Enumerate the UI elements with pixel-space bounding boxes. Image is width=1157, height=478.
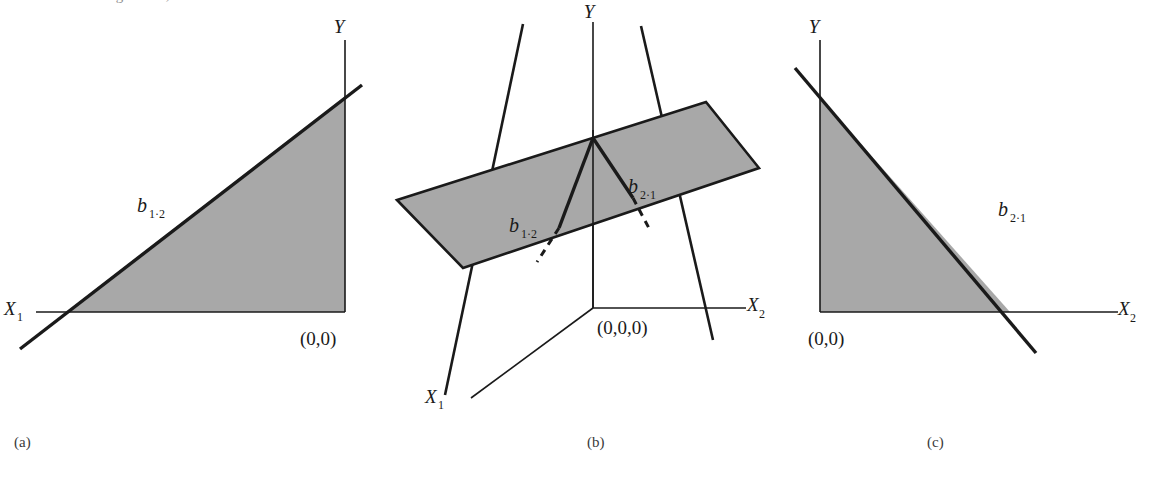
figure-root: regression, and Y X 1 (0,0) b 1·2: [0, 0, 1157, 478]
coefficient-label-b12-b: b: [509, 214, 519, 236]
origin-label-b: (0,0,0): [597, 317, 648, 339]
x1-axis-ground-b: [471, 308, 593, 398]
coefficient-label-b21-b: b: [628, 175, 638, 197]
panel-caption-b: (b): [587, 434, 605, 451]
coefficient-label-a: b: [137, 194, 147, 216]
x1-axis-sublabel-b: 1: [438, 398, 444, 412]
x-axis-sublabel-c: 2: [1130, 311, 1136, 325]
x-axis-sublabel-a: 1: [17, 310, 23, 324]
coefficient-sublabel-b21-b: 2·1: [640, 188, 656, 202]
panel-c-canvas: Y X 2 (0,0) b 2·1: [760, 0, 1157, 430]
panel-a: Y X 1 (0,0) b 1·2: [0, 0, 390, 430]
y-axis-label-c: Y: [809, 16, 822, 37]
regression-plane-b: [397, 102, 759, 268]
panel-b-canvas: Y X 2 X 1 (0,0,0) b 1·2 b 2·1: [383, 0, 773, 430]
x2-axis-label-b: X: [746, 294, 760, 315]
y-axis-label-a: Y: [334, 16, 347, 37]
coefficient-sublabel-b12-b: 1·2: [521, 227, 537, 241]
origin-label-c: (0,0): [808, 328, 844, 350]
panel-caption-c: (c): [927, 434, 944, 451]
y-axis-label-b: Y: [584, 1, 597, 22]
coefficient-sublabel-c: 2·1: [1010, 211, 1026, 225]
panel-a-canvas: Y X 1 (0,0) b 1·2: [0, 0, 390, 430]
coefficient-label-c: b: [998, 198, 1008, 220]
x-axis-label-c: X: [1117, 298, 1131, 319]
x1-axis-label-b: X: [424, 386, 438, 407]
x-axis-label-a: X: [3, 298, 17, 319]
panel-b: Y X 2 X 1 (0,0,0) b 1·2 b 2·1: [383, 0, 773, 430]
coefficient-sublabel-a: 1·2: [149, 207, 165, 221]
origin-label-a: (0,0): [300, 328, 336, 350]
panel-c: Y X 2 (0,0) b 2·1: [760, 0, 1157, 430]
panel-caption-a: (a): [14, 434, 31, 451]
